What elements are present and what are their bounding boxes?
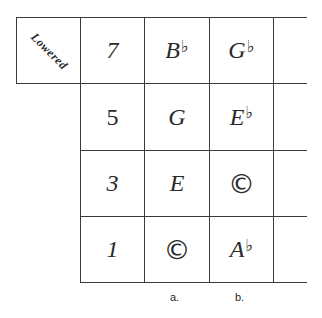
col-line-4 — [273, 17, 274, 283]
column-label-a: a. — [170, 291, 179, 303]
flat-icon: ♭ — [245, 235, 253, 255]
note-cell-a: B♭ — [145, 18, 209, 83]
degree-cell: 1 — [81, 217, 144, 282]
note-name: G — [168, 104, 185, 131]
note-cell-b: © — [210, 151, 273, 216]
note-name: B — [165, 37, 180, 64]
degree-cell: 3 — [81, 151, 144, 216]
note-name: A — [230, 236, 245, 263]
note-cell-b: G♭ — [210, 18, 273, 83]
note-cell-a: © — [145, 217, 209, 282]
flat-icon: ♭ — [245, 102, 253, 122]
degree-value: 3 — [107, 170, 119, 197]
flat-icon: ♭ — [247, 36, 255, 56]
corner-header: Lowered — [17, 18, 80, 83]
flat-icon: ♭ — [181, 36, 189, 56]
degree-cell: 5 — [81, 84, 144, 150]
note-name: G — [228, 37, 245, 64]
circled-c-icon: © — [228, 168, 255, 199]
note-cell-b: E♭ — [210, 84, 273, 150]
note-name: E — [170, 170, 185, 197]
note-cell-b: A♭ — [210, 217, 273, 282]
circled-c-icon: © — [164, 234, 191, 265]
degree-value: 1 — [107, 236, 119, 263]
column-label-b: b. — [235, 291, 244, 303]
degree-value: 7 — [107, 37, 119, 64]
note-name: E — [230, 104, 245, 131]
note-cell-a: G — [145, 84, 209, 150]
corner-label: Lowered — [17, 19, 81, 83]
degree-value: 5 — [107, 104, 119, 131]
degree-cell: 7 — [81, 18, 144, 83]
note-cell-a: E — [145, 151, 209, 216]
